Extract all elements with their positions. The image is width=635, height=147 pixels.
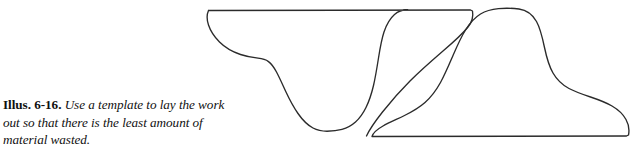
figure-illustration: Illus. 6-16. Use a template to lay the w…	[0, 0, 635, 147]
upper-bowl-profile-path	[207, 10, 473, 136]
caption-label: Illus. 6-16.	[3, 97, 61, 112]
lower-dome-profile-path	[372, 8, 629, 136]
figure-caption: Illus. 6-16. Use a template to lay the w…	[3, 96, 228, 147]
